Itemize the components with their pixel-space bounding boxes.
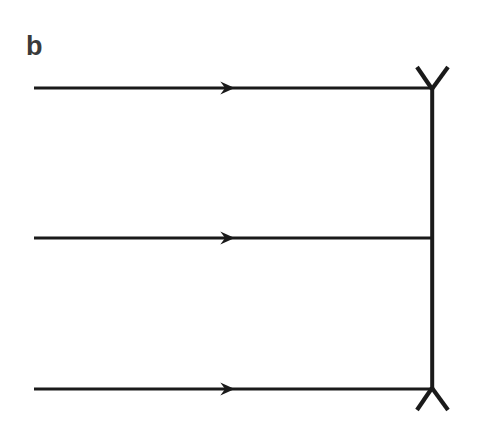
- feynman-diagram: [0, 0, 479, 427]
- horizontal-line-group: [34, 88, 432, 389]
- top-vertex-group: [417, 67, 448, 89]
- bottom-vertex-group: [417, 388, 448, 410]
- top-vertex-left-branch: [417, 67, 432, 89]
- figure-panel-b: b: [0, 0, 479, 427]
- bottom-vertex-right-branch: [432, 388, 448, 410]
- top-vertex-right-branch: [432, 67, 448, 89]
- bottom-vertex-left-branch: [417, 388, 432, 410]
